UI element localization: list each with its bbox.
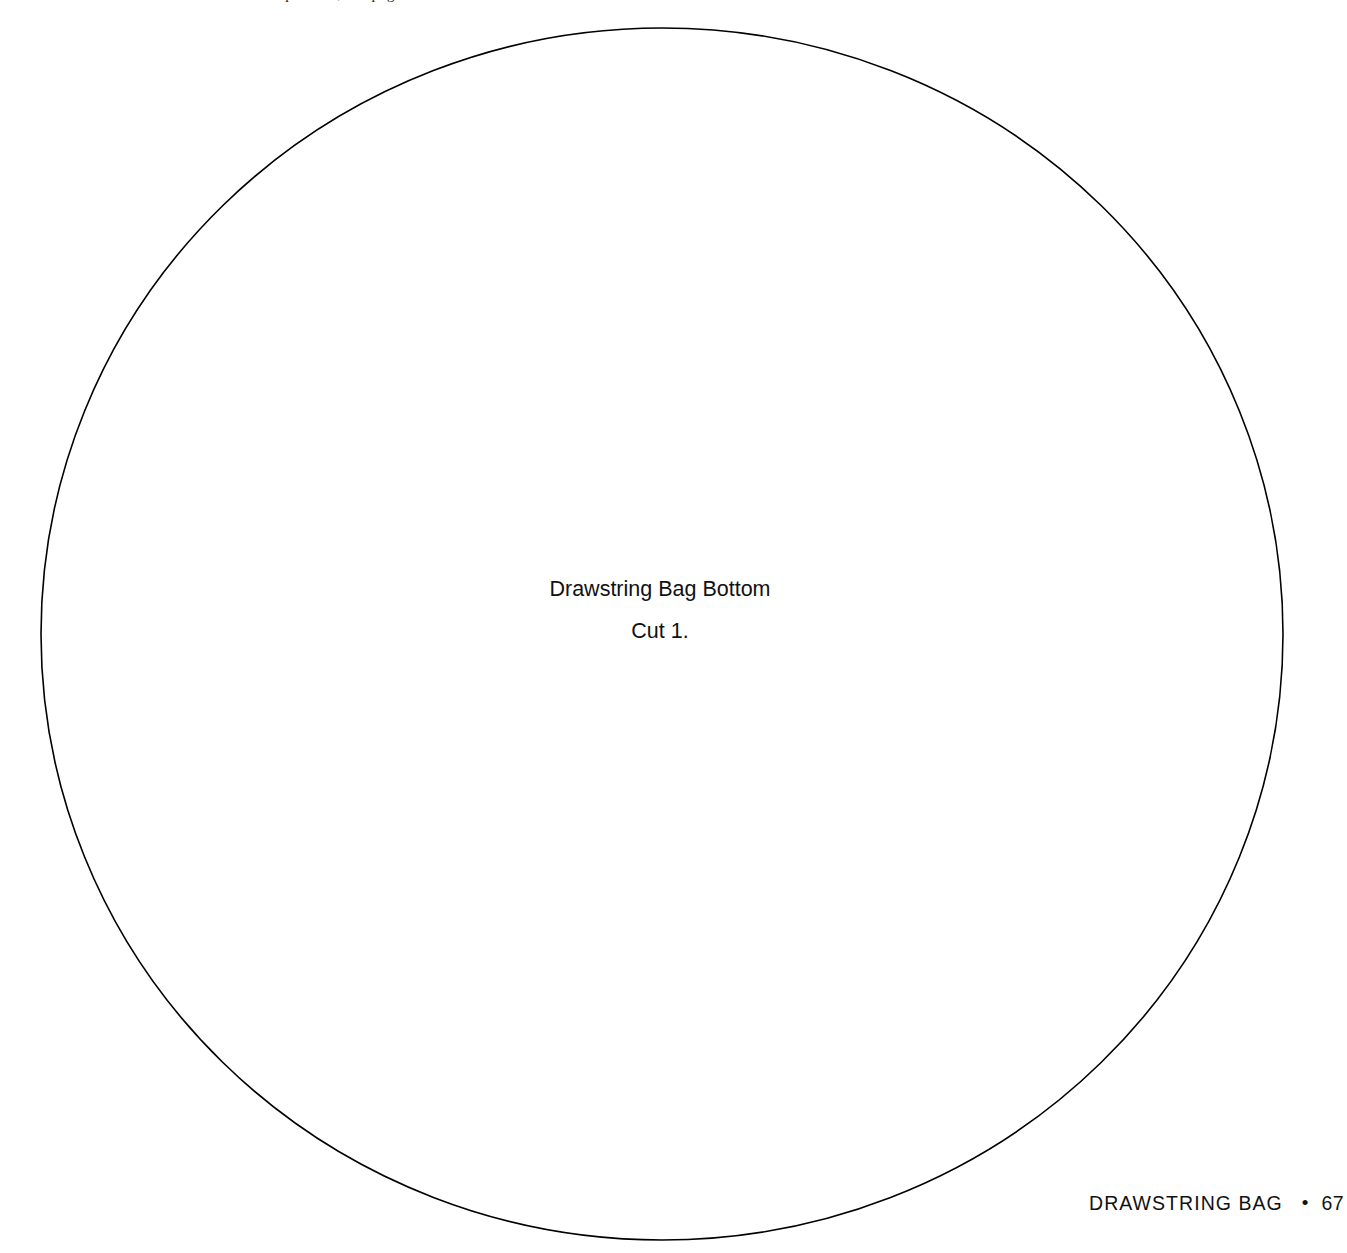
pattern-label-line-2: Cut 1. (0, 610, 1320, 652)
pattern-label-block: Drawstring Bag Bottom Cut 1. (0, 568, 1320, 652)
pattern-label-line-1: Drawstring Bag Bottom (0, 568, 1320, 610)
page-footer: DRAWSTRING BAG • 67 (1089, 1192, 1344, 1215)
footer-section-title: DRAWSTRING BAG (1089, 1192, 1283, 1215)
pattern-page: patterns, see page 8 Drawstring Bag Bott… (0, 0, 1347, 1253)
page-number: 67 (1322, 1192, 1345, 1215)
bullet-separator-icon: • (1302, 1193, 1309, 1212)
